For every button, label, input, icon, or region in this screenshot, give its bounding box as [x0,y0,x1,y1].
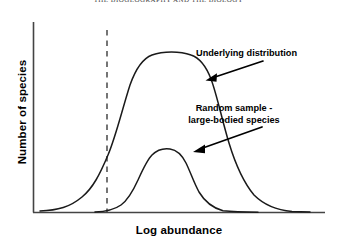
y-axis-title: Number of species [16,52,28,172]
plot-area [0,0,337,246]
figure-container: THE BIOGEOGRAPHY AND THE BIOLOGY Number … [0,0,337,246]
annotation-line: Underlying distribution [196,48,297,60]
annotation-label-random-sample: Random sample - large-bodied species [188,103,279,126]
x-axis-title: Log abundance [33,224,325,236]
annotation-arrow-random-sample [193,127,262,153]
curve-underlying-distribution [40,52,310,212]
annotation-label-underlying-distribution: Underlying distribution [196,48,297,60]
annotation-arrow-underlying [206,61,264,82]
annotation-line: Random sample - [188,103,279,115]
annotation-line: large-bodied species [188,115,279,127]
